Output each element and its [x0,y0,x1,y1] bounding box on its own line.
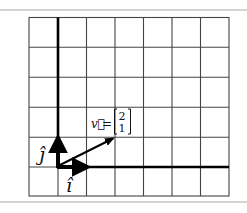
vector-diagram: ĵ î v⃗ = 2 1 [0,0,247,213]
column-matrix: 2 1 [115,109,131,135]
matrix-entry-bottom: 1 [119,122,126,135]
equals-sign: = [102,117,112,131]
i-hat-label: î [66,174,74,196]
j-hat-label: ĵ [35,143,46,165]
